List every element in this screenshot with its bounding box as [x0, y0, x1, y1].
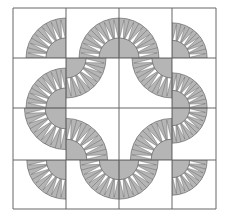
quilt-cell-r0-c3: [172, 23, 207, 58]
quilt-block-grid: [0, 0, 225, 223]
quilt-cell-r1-c1: [66, 58, 106, 98]
quilt-cell-r2-c0: [24, 108, 66, 150]
quilt-cell-r1-c2: [132, 58, 172, 98]
quilt-cell-r3-c0: [27, 160, 66, 199]
quilt-cell-r0-c0: [26, 18, 66, 58]
quilt-cell-r2-c2: [130, 118, 172, 160]
quilt-cell-r2-c3: [172, 108, 207, 143]
quilt-cell-r3-c2: [119, 160, 158, 199]
quilt-diagram: [0, 0, 225, 223]
quilt-cell-r1-c0: [26, 68, 66, 108]
quilt-cell-r0-c2: [119, 18, 159, 58]
quilt-cell-r2-c1: [66, 118, 108, 160]
quilt-cell-r0-c1: [79, 18, 119, 58]
quilt-cell-r1-c3: [172, 73, 207, 108]
quilt-cell-r3-c3: [172, 160, 207, 195]
quilt-cell-r3-c1: [80, 160, 119, 199]
